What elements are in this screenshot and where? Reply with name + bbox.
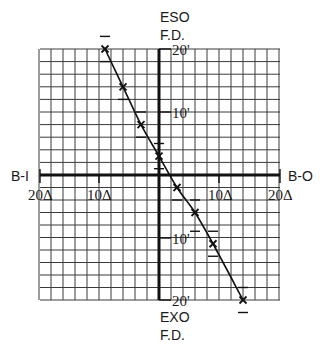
x-tick-label-right-10: 10Δ: [208, 187, 233, 203]
x-tick-label-right-20: 20Δ: [268, 187, 293, 203]
base-in-label: B-I: [11, 168, 29, 184]
y-tick-label-top-20: 20': [172, 42, 190, 58]
y-tick-label-top-10: 10': [172, 105, 190, 121]
eso-label: ESO: [160, 9, 190, 25]
y-tick-label-bottom-20: 20': [172, 293, 190, 309]
x-tick-label-left-20: 20Δ: [28, 187, 53, 203]
base-out-label: B-O: [288, 168, 313, 184]
x-marker-icon: [210, 240, 217, 247]
x-tick-label-left-10: 10Δ: [87, 187, 112, 203]
exo-fd-label: F.D.: [160, 327, 185, 343]
exo-label: EXO: [160, 309, 190, 325]
y-tick-label-bottom-10: 10': [172, 231, 190, 247]
eso-fd-label: F.D.: [160, 27, 185, 43]
fixation-disparity-chart: ESO F.D. EXO F.D. B-I B-O 20Δ 10Δ 10Δ 20…: [0, 0, 320, 347]
